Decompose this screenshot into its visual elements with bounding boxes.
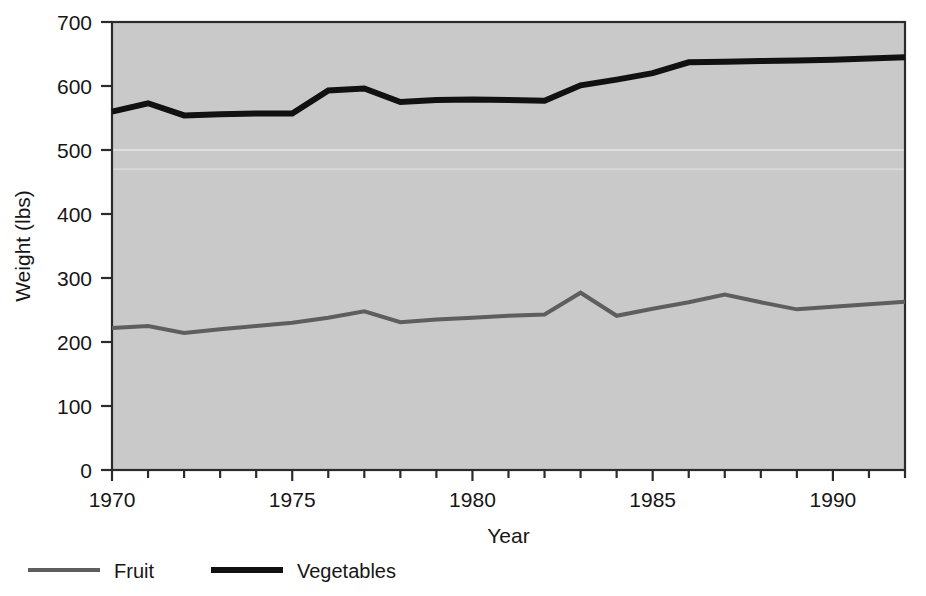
x-axis: 19701975198019851990 [89,470,905,511]
y-tick-label: 500 [57,139,92,162]
legend: FruitVegetables [28,560,396,582]
y-tick-label: 700 [57,11,92,34]
y-axis: 0100200300400500600700 [57,11,112,482]
y-tick-label: 200 [57,331,92,354]
y-tick-label: 0 [80,459,92,482]
plot-area-background [112,22,905,470]
x-axis-title: Year [487,524,529,547]
y-tick-label: 100 [57,395,92,418]
legend-item-fruit[interactable]: Fruit [28,560,154,582]
y-axis-title: Weight (lbs) [11,190,34,302]
legend-item-vegetables[interactable]: Vegetables [211,560,396,582]
y-tick-label: 400 [57,203,92,226]
legend-label-vegetables: Vegetables [297,560,396,582]
x-tick-label: 1970 [89,488,136,511]
x-tick-label: 1975 [269,488,316,511]
legend-label-fruit: Fruit [114,560,154,582]
x-tick-label: 1990 [810,488,857,511]
chart-canvas: 0100200300400500600700197019751980198519… [0,0,926,596]
y-tick-label: 600 [57,75,92,98]
x-tick-label: 1980 [449,488,496,511]
y-tick-label: 300 [57,267,92,290]
line-chart: 0100200300400500600700197019751980198519… [0,0,926,596]
x-tick-label: 1985 [629,488,676,511]
